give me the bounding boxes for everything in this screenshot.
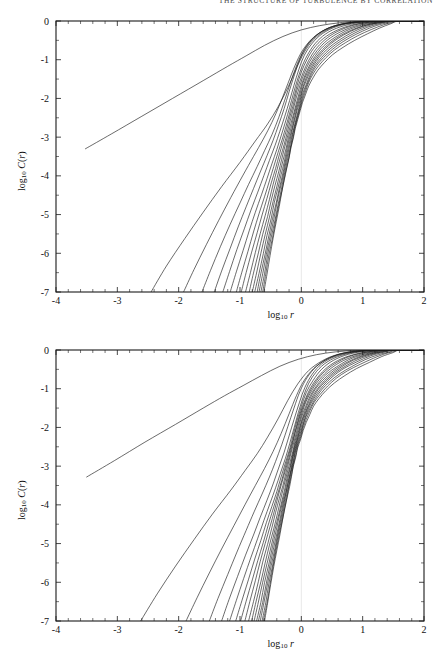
- correlation-curve: [223, 21, 424, 292]
- y-tick-label: 0: [44, 345, 49, 356]
- x-tick-label: -1: [236, 624, 244, 635]
- correlation-plot-bottom: -4-3-2-10120-1-2-3-4-5-6-7: [0, 329, 439, 659]
- y-tick-label: -6: [41, 577, 49, 588]
- x-tick-label: 1: [360, 295, 365, 306]
- x-tick-label: 1: [360, 624, 365, 635]
- y-tick-label: -3: [41, 132, 49, 143]
- x-tick-label: 0: [299, 624, 304, 635]
- chart-panel-top: -4-3-2-10120-1-2-3-4-5-6-7 log10 C(r) lo…: [0, 0, 439, 330]
- axis-ticks: [56, 21, 424, 292]
- x-tick-label: -3: [113, 624, 121, 635]
- y-tick-label: -7: [41, 616, 49, 627]
- x-axis-label-bottom: log10 r: [268, 638, 294, 650]
- y-tick-label: -6: [41, 248, 49, 259]
- correlation-plot-top: -4-3-2-10120-1-2-3-4-5-6-7: [0, 0, 439, 330]
- curve-group: [85, 21, 424, 292]
- x-tick-label: -4: [52, 624, 60, 635]
- y-tick-label: -1: [41, 383, 49, 394]
- y-axis-label-bottom: log10 C(r): [16, 480, 28, 520]
- y-tick-label: -5: [41, 538, 49, 549]
- x-tick-label: -3: [113, 295, 121, 306]
- y-tick-label: -4: [41, 499, 49, 510]
- y-tick-label: 0: [44, 16, 49, 27]
- correlation-curve: [246, 21, 424, 292]
- plot-frame: [56, 21, 424, 292]
- y-tick-label: -2: [41, 93, 49, 104]
- correlation-curve: [230, 21, 424, 292]
- y-tick-label: -5: [41, 209, 49, 220]
- plot-frame: [56, 350, 424, 621]
- correlation-curve: [245, 350, 424, 621]
- correlation-curve: [252, 21, 424, 292]
- correlation-curve: [260, 350, 424, 621]
- correlation-curve: [236, 350, 424, 621]
- correlation-curve: [241, 21, 424, 292]
- correlation-curve: [255, 21, 424, 292]
- correlation-curve: [214, 21, 424, 292]
- correlation-curve: [236, 21, 424, 292]
- correlation-curve: [252, 350, 424, 621]
- x-tick-label: -2: [174, 624, 182, 635]
- x-tick-label: 2: [422, 295, 427, 306]
- x-tick-label: -4: [52, 295, 60, 306]
- tick-labels: -4-3-2-10120-1-2-3-4-5-6-7: [41, 16, 427, 307]
- x-tick-label: 2: [422, 624, 427, 635]
- y-tick-label: -1: [41, 54, 49, 65]
- chart-panel-bottom: -4-3-2-10120-1-2-3-4-5-6-7 log10 C(r) lo…: [0, 329, 439, 659]
- x-axis-label-top: log10 r: [268, 309, 294, 321]
- correlation-curve: [141, 350, 424, 621]
- curve-group: [87, 350, 424, 621]
- x-tick-label: -1: [236, 295, 244, 306]
- correlation-curve: [186, 350, 424, 621]
- correlation-curve: [87, 350, 424, 477]
- correlation-curve: [263, 21, 424, 292]
- figure-page: THE STRUCTURE OF TURBULENCE BY CORRELATI…: [0, 0, 439, 659]
- y-axis-label-top: log10 C(r): [16, 151, 28, 191]
- tick-labels: -4-3-2-10120-1-2-3-4-5-6-7: [41, 345, 427, 636]
- y-tick-label: -4: [41, 170, 49, 181]
- correlation-curve: [249, 350, 424, 621]
- y-tick-label: -3: [41, 461, 49, 472]
- correlation-curve: [85, 21, 424, 149]
- y-tick-label: -2: [41, 422, 49, 433]
- x-tick-label: -2: [174, 295, 182, 306]
- correlation-curve: [254, 350, 424, 621]
- correlation-curve: [249, 21, 424, 292]
- y-tick-label: -7: [41, 287, 49, 298]
- correlation-curve: [257, 350, 424, 621]
- correlation-curve: [209, 350, 424, 621]
- axis-ticks: [56, 350, 424, 621]
- x-tick-label: 0: [299, 295, 304, 306]
